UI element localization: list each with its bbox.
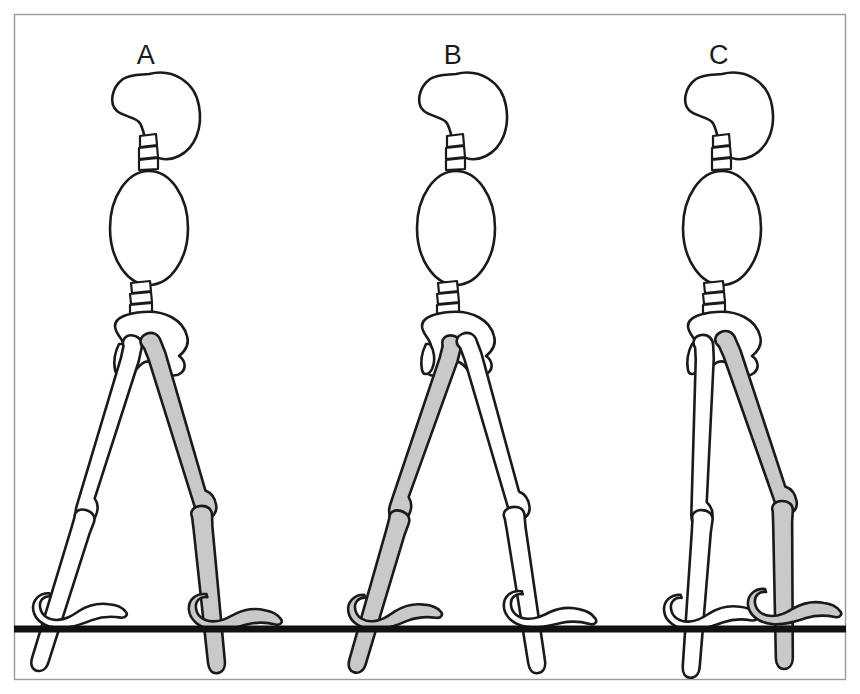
thorax-c xyxy=(683,171,761,285)
figure-root: A B C xyxy=(0,0,860,694)
lumbar-vertebrae-a xyxy=(130,281,152,314)
cervical-vertebrae-a xyxy=(139,134,158,170)
figure-label-c: C xyxy=(709,40,729,70)
thorax-a xyxy=(110,171,188,285)
figure-label-a: A xyxy=(137,40,156,70)
lumbar-vertebrae-b xyxy=(437,281,459,314)
lumbar-vertebrae-c xyxy=(703,281,725,314)
cervical-vertebrae-c xyxy=(712,134,731,170)
thorax-b xyxy=(417,171,495,285)
gait-skeleton-svg: A B C xyxy=(0,0,860,694)
figure-label-b: B xyxy=(444,40,463,70)
cervical-vertebrae-b xyxy=(446,134,465,170)
